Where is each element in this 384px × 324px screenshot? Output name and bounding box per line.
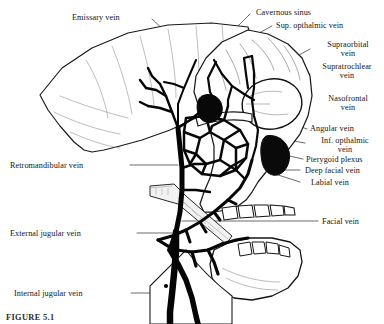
label-facial-vein: Facial vein [322, 217, 384, 226]
cavernous-sinus [197, 94, 222, 122]
label-internal-jugular-vein: Internal jugular vein [14, 289, 134, 298]
label-supraorbital-vein: Supraorbital vein [314, 40, 382, 59]
label-angular-vein: Angular vein [310, 124, 384, 133]
label-emissary-vein: Emissary vein [72, 13, 154, 22]
label-labial-vein: Labial vein [311, 178, 384, 187]
label-deep-facial-vein: Deep facial vein [305, 166, 384, 175]
label-inf-opthalmic-vein: Inf. opthalmic vein [306, 136, 384, 155]
label-nasofrontal-vein: Nasofrontal vein [314, 94, 382, 113]
label-sup-opthalmic-vein: Sup. opthalmic vein [276, 21, 382, 30]
anatomy-figure: Emissary vein Cavernous sinus Sup. optha… [0, 0, 384, 324]
label-supratrochlear-vein: Supratrochlear vein [310, 62, 384, 81]
figure-caption: FIGURE 5.1 [6, 313, 55, 324]
label-external-jugular-vein: External jugular vein [10, 229, 138, 238]
label-pterygoid-plexus: Pterygoid plexus [306, 155, 384, 164]
label-retromandibular-vein: Retromandibular vein [10, 161, 130, 170]
jugular-valve-dot [164, 284, 168, 288]
label-cavernous-sinus: Cavernous sinus [256, 8, 346, 17]
